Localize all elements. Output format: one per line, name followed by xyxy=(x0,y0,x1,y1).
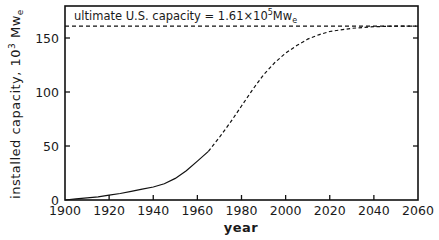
ultimate-capacity-annotation: ultimate U.S. capacity = 1.61×105Mwe xyxy=(74,8,297,25)
x-axis: 190019201940196019802000202020402060 xyxy=(49,195,434,218)
x-tick-label: 2020 xyxy=(314,203,346,218)
y-axis-title: installed capacity, 103 Mwe xyxy=(7,9,25,199)
series-layer xyxy=(65,26,418,200)
x-tick-label: 2060 xyxy=(402,203,434,218)
chart-root: 190019201940196019802000202020402060 050… xyxy=(0,0,439,240)
x-tick-label: 1960 xyxy=(181,203,213,218)
x-tick-label: 2040 xyxy=(358,203,390,218)
y-tick-label: 150 xyxy=(35,31,59,46)
y-axis: 050100150 xyxy=(35,31,418,208)
x-tick-label: 1980 xyxy=(226,203,258,218)
y-tick-label: 50 xyxy=(43,139,59,154)
x-axis-title: year xyxy=(224,220,259,235)
x-tick-label: 2000 xyxy=(270,203,302,218)
y-tick-label: 100 xyxy=(35,85,59,100)
y-tick-label: 0 xyxy=(51,193,59,208)
historical-capacity-line xyxy=(65,151,208,200)
x-tick-label: 1940 xyxy=(137,203,169,218)
projected-capacity-line xyxy=(208,26,418,151)
x-tick-label: 1920 xyxy=(93,203,125,218)
plot-frame xyxy=(65,6,418,200)
